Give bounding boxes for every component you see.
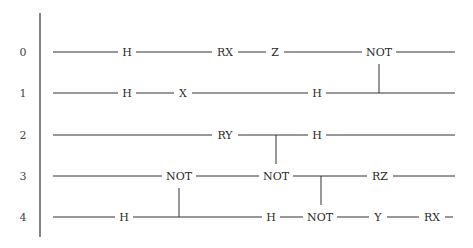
gate-h: H: [266, 211, 276, 224]
qubit-label-0: 0: [20, 46, 27, 59]
gate-not: NOT: [366, 46, 393, 59]
control-lines: [179, 64, 379, 217]
qubit-label-4: 4: [20, 211, 27, 224]
gate-rx: RX: [217, 46, 233, 59]
gate-y: Y: [373, 211, 382, 224]
gate-rz: RZ: [372, 170, 388, 183]
qubit-label-3: 3: [20, 170, 27, 183]
qubit-wires: [53, 52, 455, 217]
gate-x: X: [179, 87, 187, 100]
gate-h: H: [312, 129, 322, 142]
gate-not: NOT: [307, 211, 334, 224]
gate-h: H: [312, 87, 322, 100]
qubit-label-2: 2: [20, 129, 27, 142]
gate-not: NOT: [263, 170, 290, 183]
gate-z: Z: [271, 46, 279, 59]
gate-rx: RX: [424, 211, 440, 224]
qubit-label-1: 1: [20, 87, 27, 100]
gate-not: NOT: [166, 170, 193, 183]
qubit-labels: 01234: [20, 46, 27, 224]
gate-h: H: [122, 46, 132, 59]
gate-ry: RY: [217, 129, 233, 142]
gate-h: H: [119, 211, 129, 224]
quantum-circuit-diagram: 01234 HRXZNOTHXHRYHNOTNOTRZHHNOTYRX: [0, 0, 473, 248]
gate-h: H: [122, 87, 132, 100]
